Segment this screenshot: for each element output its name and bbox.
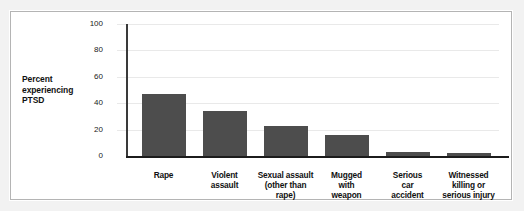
x-category-label: Witnessedkilling orserious injury	[431, 170, 506, 201]
x-category-label-line: Witnessed	[431, 170, 506, 180]
bar	[386, 152, 430, 156]
x-axis-category-labels: RapeViolentassaultSexual assault(other t…	[117, 170, 509, 211]
x-category-label-line: serious injury	[431, 190, 506, 200]
y-axis-line	[126, 24, 128, 157]
gridline	[117, 77, 499, 78]
bar	[325, 135, 369, 156]
y-axis-label-line-2: experiencing	[22, 85, 98, 96]
y-tick-label: 40	[73, 99, 103, 107]
y-tick-label: 0	[73, 152, 103, 160]
y-tick-label: 80	[73, 46, 103, 54]
bar	[264, 126, 308, 156]
bar	[203, 111, 247, 156]
chart-plot-area: 020406080100	[107, 24, 499, 168]
bar	[142, 94, 186, 156]
y-tick-label: 100	[73, 20, 103, 28]
plot-region: 020406080100	[117, 24, 499, 156]
gridline	[117, 24, 499, 25]
y-tick-label: 20	[73, 126, 103, 134]
bar	[447, 153, 491, 156]
chart-figure-frame: Percent experiencing PTSD 020406080100 R…	[10, 11, 512, 200]
x-category-label-line: killing or	[431, 180, 506, 190]
x-axis-line	[126, 156, 509, 158]
y-tick-label: 60	[73, 73, 103, 81]
gridline	[117, 50, 499, 51]
